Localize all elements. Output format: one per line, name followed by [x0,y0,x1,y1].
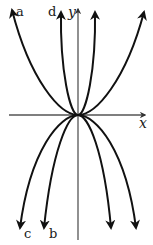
curve-d-left [61,12,78,115]
x-axis-label: x [139,115,147,131]
curve-a-right [78,12,144,115]
diagram-svg: a d y x c b [0,0,153,245]
labels: a d y x c b [16,4,147,241]
curve-b-right [78,115,111,228]
curve-c-left [20,115,78,228]
power-curves-diagram: a d y x c b [0,0,153,245]
curve-b-label: b [49,226,57,241]
curve-b-left [44,115,78,228]
curve-c-right [78,115,136,228]
y-axis-label: y [67,4,77,20]
axes [9,9,145,240]
curve-c-label: c [24,226,31,241]
curve-d-label: d [48,4,56,19]
curve-a-left [12,10,78,115]
curve-d-right [78,12,95,115]
curve-a-label: a [16,4,24,19]
